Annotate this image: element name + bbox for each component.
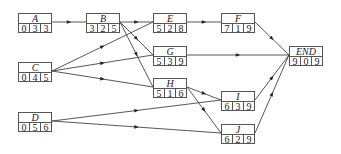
arrowhead-icon: [269, 92, 272, 97]
node-values: 719: [222, 24, 254, 33]
arrowhead-icon: [100, 46, 105, 50]
node-c: C045: [18, 62, 52, 82]
node-values: 629: [222, 135, 254, 144]
arrowhead-icon: [202, 20, 207, 24]
node-value: 1: [165, 89, 176, 98]
node-value: 0: [301, 57, 312, 66]
edge-d-j: [52, 121, 221, 133]
edge-g-end: [187, 53, 289, 57]
arrowhead-icon: [134, 125, 139, 129]
node-value: 3: [87, 24, 98, 33]
node-values: 639: [222, 102, 254, 111]
node-value: 9: [244, 102, 254, 111]
node-value: 4: [30, 73, 41, 82]
node-values: 909: [290, 57, 322, 66]
node-value: 6: [176, 89, 186, 98]
node-value: 5: [154, 89, 165, 98]
node-values: 045: [19, 73, 51, 82]
node-i: I639: [221, 91, 255, 111]
node-j: J629: [221, 124, 255, 144]
node-values: 539: [154, 57, 186, 66]
edge-c-h: [52, 71, 153, 87]
node-value: 2: [98, 24, 109, 33]
node-value: 7: [222, 24, 233, 33]
node-value: 5: [109, 24, 119, 33]
edge-b-e: [120, 20, 153, 24]
node-h: H516: [153, 78, 187, 98]
node-values: 528: [154, 24, 186, 33]
node-e: E528: [153, 13, 187, 33]
node-value: 5: [154, 57, 165, 66]
node-value: 3: [41, 24, 51, 33]
node-values: 325: [87, 24, 119, 33]
node-value: 0: [19, 123, 30, 132]
node-values: 056: [19, 123, 51, 132]
node-d: D056: [18, 112, 52, 132]
arrowhead-icon: [134, 52, 138, 57]
node-value: 9: [290, 57, 301, 66]
edge-e-f: [187, 20, 221, 24]
node-value: 9: [244, 24, 254, 33]
edge-d-i: [52, 100, 221, 121]
node-value: 2: [165, 24, 176, 33]
node-values: 516: [154, 89, 186, 98]
arrowhead-icon: [236, 53, 241, 57]
node-value: 0: [19, 24, 30, 33]
node-value: 3: [165, 57, 176, 66]
node-a: A033: [18, 13, 52, 33]
arrowhead-icon: [134, 20, 139, 24]
node-value: 3: [233, 102, 244, 111]
node-value: 9: [312, 57, 322, 66]
node-value: 5: [41, 73, 51, 82]
node-value: 3: [30, 24, 41, 33]
node-value: 9: [244, 135, 254, 144]
edge-c-g: [52, 55, 153, 71]
edge-j-end: [255, 55, 289, 133]
node-f: F719: [221, 13, 255, 33]
node-g: G539: [153, 46, 187, 66]
node-value: 9: [176, 57, 186, 66]
node-value: 6: [222, 102, 233, 111]
node-value: 8: [176, 24, 186, 33]
node-value: 5: [30, 123, 41, 132]
node-value: 5: [154, 24, 165, 33]
arrowhead-icon: [100, 77, 105, 81]
network-diagram: A033B325E528F719C045G539H516END909D056I6…: [0, 0, 341, 154]
node-b: B325: [86, 13, 120, 33]
arrowhead-icon: [134, 109, 139, 113]
arrowhead-icon: [201, 91, 206, 94]
arrowhead-icon: [67, 20, 72, 24]
node-value: 6: [222, 135, 233, 144]
node-value: 0: [19, 73, 30, 82]
node-value: 1: [233, 24, 244, 33]
edge-b-h: [120, 22, 153, 87]
node-values: 033: [19, 24, 51, 33]
edge-b-g: [120, 22, 153, 55]
node-end: END909: [289, 46, 323, 66]
node-value: 6: [41, 123, 51, 132]
edge-a-b: [52, 20, 86, 24]
edge-f-end: [255, 22, 289, 55]
arrowhead-icon: [100, 62, 105, 66]
node-value: 2: [233, 135, 244, 144]
